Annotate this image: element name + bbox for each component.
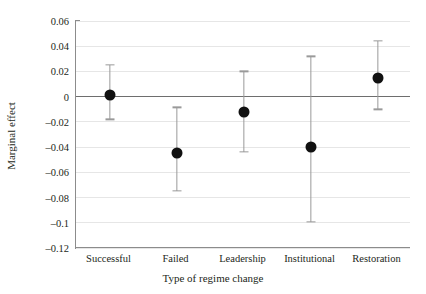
- x-tick-label-institutional: Institutional: [284, 253, 335, 264]
- data-point-successful: [104, 89, 115, 100]
- y-tick-label: –0.06: [45, 167, 69, 178]
- data-point-failed: [171, 147, 182, 158]
- gridline: [76, 248, 410, 249]
- error-bar-cap: [373, 109, 382, 110]
- y-tick-label: –0.04: [45, 142, 69, 153]
- data-point-restoration: [372, 72, 383, 83]
- gridline: [76, 21, 410, 22]
- gridline: [76, 172, 410, 173]
- marginal-effect-chart: Marginal effect 0.060.040.020–0.02–0.04–…: [0, 0, 426, 294]
- gridline: [76, 197, 410, 198]
- y-tick-label: –0.12: [45, 243, 69, 254]
- error-bar-cap: [105, 64, 114, 65]
- y-tick-label: 0.04: [51, 41, 69, 52]
- y-axis-tick-labels: 0.060.040.020–0.02–0.04–0.06–0.08–0.1–0.…: [0, 21, 75, 248]
- y-tick-label: –0.08: [45, 192, 69, 203]
- x-tick-label-failed: Failed: [162, 253, 188, 264]
- error-bar: [310, 56, 311, 221]
- error-bar-cap: [306, 221, 315, 222]
- error-bar-cap: [239, 151, 248, 152]
- data-point-institutional: [305, 142, 316, 153]
- x-tick-label-restoration: Restoration: [352, 253, 400, 264]
- error-bar-cap: [172, 190, 181, 191]
- y-tick-label: 0.02: [51, 66, 69, 77]
- gridline: [76, 222, 410, 223]
- error-bar-cap: [172, 107, 181, 108]
- x-tick-label-successful: Successful: [86, 253, 131, 264]
- x-axis-tick-labels: SuccessfulFailedLeadershipInstitutionalR…: [75, 250, 410, 272]
- y-tick-label: –0.02: [45, 116, 69, 127]
- x-axis-title: Type of regime change: [0, 272, 426, 284]
- error-bar-cap: [373, 41, 382, 42]
- y-tick-label: 0.06: [51, 16, 69, 27]
- error-bar-cap: [306, 56, 315, 57]
- plot-area: [75, 21, 410, 248]
- error-bar-cap: [105, 119, 114, 120]
- y-tick-label: 0: [64, 91, 69, 102]
- gridline: [76, 46, 410, 47]
- x-tick-label-leadership: Leadership: [219, 253, 266, 264]
- data-point-leadership: [238, 107, 249, 118]
- y-tick-label: –0.1: [51, 217, 69, 228]
- error-bar-cap: [239, 71, 248, 72]
